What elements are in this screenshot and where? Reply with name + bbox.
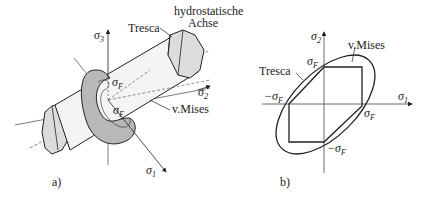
sigma3-label: σ3 <box>94 28 104 44</box>
tresca-label-a: Tresca <box>128 21 160 35</box>
panel-a: σ3 Tresca hydrostatische Achse σF σF v.M… <box>15 4 243 189</box>
hydrostatic-label-line2: Achse <box>188 16 218 30</box>
neg-sigmaF-label-b-left: −σF <box>264 89 283 105</box>
sigma1-label-b: σ1 <box>398 89 408 105</box>
panel-a-label: a) <box>52 175 61 189</box>
tresca-leader-b <box>296 73 303 80</box>
sigmaF-label-b-right: σF <box>364 106 375 122</box>
tresca-leader <box>160 28 172 37</box>
tresca-label-b: Tresca <box>259 64 291 78</box>
sigmaF-label-b-top: σF <box>307 54 318 70</box>
neg-sigmaF-label-b-bottom: −σF <box>327 141 346 157</box>
tresca-hexagon <box>289 67 362 142</box>
panel-b-label: b) <box>280 175 290 189</box>
mises-label-b: v.Mises <box>348 38 385 52</box>
mises-leader <box>150 100 170 110</box>
mises-label-a: v.Mises <box>172 102 209 116</box>
sigma1-label-a: σ1 <box>146 163 156 179</box>
yield-surface-figure: σ3 Tresca hydrostatische Achse σF σF v.M… <box>0 0 422 198</box>
sigma2-label-b: σ2 <box>311 29 321 45</box>
panel-b: σ2 v.Mises σF Tresca −σF σ1 σF −σF b) <box>259 29 412 189</box>
